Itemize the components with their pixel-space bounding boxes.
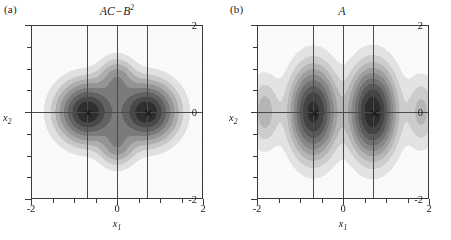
panel-b-ytick-mid: 0 bbox=[418, 107, 423, 118]
panel-b-plot-area bbox=[257, 25, 429, 199]
x-tick--1 bbox=[300, 199, 301, 203]
panel-a-xtick-right: 2 bbox=[200, 203, 205, 214]
y-tick--1 bbox=[253, 156, 257, 157]
x-tick-0.5 bbox=[365, 199, 366, 203]
panel-a-title-operator: − bbox=[115, 5, 124, 17]
panel-a-ytick-mid: 0 bbox=[192, 107, 197, 118]
panel-a-ytick-bottom: -2 bbox=[188, 194, 197, 205]
panel-b-xtick-mid: 0 bbox=[340, 203, 345, 214]
panel-a-y-ticks bbox=[25, 25, 31, 199]
y-tick-2 bbox=[251, 25, 257, 26]
panel-a-y-axis-sub: 2 bbox=[8, 117, 12, 126]
panel-b-label: (b) bbox=[230, 3, 243, 15]
panel-b-y-axis-sub: 2 bbox=[234, 117, 238, 126]
y-tick-0 bbox=[25, 112, 31, 113]
y-tick--1 bbox=[27, 156, 31, 157]
panel-b-xtick-right: 2 bbox=[426, 203, 431, 214]
panel-a-title-exponent: 2 bbox=[130, 3, 134, 12]
y-tick--1.5 bbox=[27, 177, 31, 178]
panel-a-ytick-top: 2 bbox=[192, 20, 197, 31]
y-tick-1 bbox=[27, 69, 31, 70]
panel-b-ytick-top: 2 bbox=[418, 20, 423, 31]
panel-b-x-axis-sub: 1 bbox=[343, 223, 347, 232]
x-tick-1.5 bbox=[182, 199, 183, 203]
panel-a-xtick-mid: 0 bbox=[114, 203, 119, 214]
x-tick--0.5 bbox=[322, 199, 323, 203]
panel-b-y-axis-label: x2 bbox=[229, 112, 237, 126]
y-tick-0.5 bbox=[27, 90, 31, 91]
y-tick--1.5 bbox=[253, 177, 257, 178]
panel-a-plot-area bbox=[31, 25, 203, 199]
x-tick--0.5 bbox=[96, 199, 97, 203]
x-tick-1.5 bbox=[408, 199, 409, 203]
x-tick--1 bbox=[74, 199, 75, 203]
x-tick-1 bbox=[160, 199, 161, 203]
panel-a-x-axis-label: x1 bbox=[31, 218, 203, 232]
panel-a-y-axis-label: x2 bbox=[3, 112, 11, 126]
x-tick-0.5 bbox=[139, 199, 140, 203]
panel-b: (b) A 2 0 -2 -2 0 2 x2 x1 bbox=[226, 0, 451, 240]
y-tick-1.5 bbox=[27, 47, 31, 48]
panel-b-density-field bbox=[258, 26, 428, 198]
y-tick--0.5 bbox=[253, 134, 257, 135]
y-tick-0 bbox=[251, 112, 257, 113]
x-tick--1.5 bbox=[279, 199, 280, 203]
panel-a: (a) AC−B2 2 0 -2 -2 0 2 x2 x1 bbox=[0, 0, 225, 240]
y-tick-1.5 bbox=[253, 47, 257, 48]
panel-b-ytick-bottom: -2 bbox=[414, 194, 423, 205]
panel-a-xtick-left: -2 bbox=[27, 203, 36, 214]
panel-b-title: A bbox=[257, 3, 429, 17]
y-tick-1 bbox=[253, 69, 257, 70]
x-tick-1 bbox=[386, 199, 387, 203]
panel-b-y-ticks bbox=[251, 25, 257, 199]
panel-b-title-main: A bbox=[338, 5, 345, 17]
panel-a-x-axis-sub: 1 bbox=[117, 223, 121, 232]
panel-a-title: AC−B2 bbox=[31, 3, 203, 17]
y-tick--0.5 bbox=[27, 134, 31, 135]
y-tick-2 bbox=[25, 25, 31, 26]
y-tick-0.5 bbox=[253, 90, 257, 91]
x-tick--1.5 bbox=[53, 199, 54, 203]
panel-a-title-main: AC bbox=[100, 5, 115, 17]
panel-a-label: (a) bbox=[4, 3, 17, 15]
panel-b-xtick-left: -2 bbox=[253, 203, 262, 214]
figure-root: (a) AC−B2 2 0 -2 -2 0 2 x2 x1 (b) A bbox=[0, 0, 451, 240]
panel-a-density-field bbox=[32, 26, 202, 198]
panel-b-x-axis-label: x1 bbox=[257, 218, 429, 232]
panel-b-title-operator bbox=[346, 5, 348, 17]
